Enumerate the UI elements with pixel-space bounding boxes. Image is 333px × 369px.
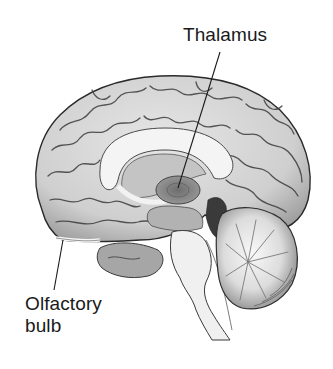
label-thalamus: Thalamus: [183, 24, 267, 46]
thalamus: [156, 176, 200, 204]
temporal-lobe: [97, 243, 163, 278]
hypothalamus: [147, 206, 203, 231]
olfactory-leader-line: [54, 240, 63, 290]
label-olfactory-line1: Olfactory: [25, 293, 102, 315]
cerebellum: [216, 208, 297, 309]
label-olfactory-line2: bulb: [25, 315, 102, 337]
label-olfactory-bulb: Olfactory bulb: [25, 293, 102, 337]
